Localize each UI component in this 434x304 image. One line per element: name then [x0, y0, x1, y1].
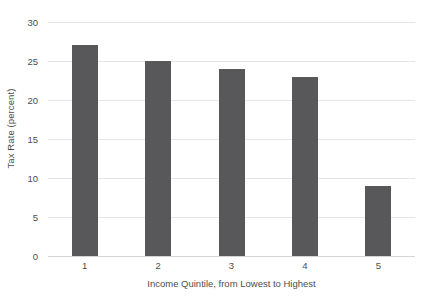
- bar: [219, 69, 245, 256]
- y-tick-label: 15: [27, 134, 38, 145]
- bar-chart: Tax Rate (percent) 051015202530 12345 In…: [0, 0, 434, 304]
- y-axis-tick-labels: 051015202530: [0, 22, 44, 256]
- y-tick-label: 30: [27, 17, 38, 28]
- y-tick-label: 0: [33, 251, 38, 262]
- x-axis-title: Income Quintile, from Lowest to Highest: [48, 278, 415, 289]
- plot-area: [48, 22, 415, 256]
- y-tick-label: 5: [33, 212, 38, 223]
- y-tick-label: 10: [27, 173, 38, 184]
- bar: [365, 186, 391, 256]
- x-tick-label: 1: [82, 260, 87, 271]
- bar: [72, 45, 98, 256]
- x-tick-label: 5: [376, 260, 381, 271]
- bar-series: [48, 22, 415, 256]
- x-axis-tick-labels: 12345: [48, 258, 415, 276]
- x-tick-label: 3: [229, 260, 234, 271]
- axis-baseline: [48, 256, 415, 257]
- x-tick-label: 2: [155, 260, 160, 271]
- x-tick-label: 4: [302, 260, 307, 271]
- y-tick-label: 20: [27, 95, 38, 106]
- bar: [145, 61, 171, 256]
- bar: [292, 77, 318, 256]
- y-tick-label: 25: [27, 56, 38, 67]
